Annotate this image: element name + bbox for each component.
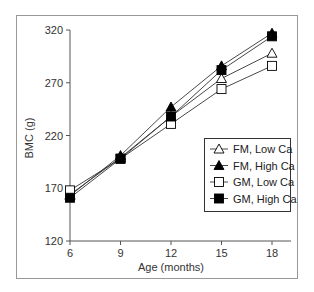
legend-item: GM, High Ca [210, 193, 297, 205]
y-tick-label: 170 [45, 182, 63, 194]
legend-label: FM, High Ca [233, 160, 296, 172]
y-tick-label: 120 [45, 235, 63, 247]
filled-square-marker [268, 32, 277, 41]
x-tick-label: 6 [67, 247, 73, 259]
legend-label: GM, High Ca [233, 193, 297, 205]
x-tick-label: 12 [165, 247, 177, 259]
y-tick-label: 270 [45, 77, 63, 89]
x-tick-label: 18 [266, 247, 278, 259]
open-square-icon [215, 178, 224, 187]
open-square-marker [268, 61, 277, 70]
open-triangle-marker [267, 48, 277, 57]
legend-item: GM, Low Ca [210, 176, 295, 188]
legend-label: FM, Low Ca [233, 143, 293, 155]
filled-triangle-marker [166, 102, 176, 111]
filled-square-marker [66, 193, 75, 202]
x-tick-label: 9 [117, 247, 123, 259]
filled-square-marker [116, 154, 125, 163]
legend-label: GM, Low Ca [233, 176, 295, 188]
filled-square-marker [217, 66, 226, 75]
legend: FM, Low CaFM, High CaGM, Low CaGM, High … [205, 139, 298, 212]
open-square-marker [217, 85, 226, 94]
x-axis-title: Age (months) [138, 261, 204, 273]
bmc-line-chart: 12017022027032069121518Age (months)BMC (… [0, 0, 314, 292]
filled-square-marker [167, 112, 176, 121]
filled-square-icon [215, 194, 224, 203]
y-tick-label: 320 [45, 24, 63, 36]
x-tick-label: 15 [215, 247, 227, 259]
y-axis-title: BMC (g) [23, 118, 35, 159]
y-tick-label: 220 [45, 130, 63, 142]
